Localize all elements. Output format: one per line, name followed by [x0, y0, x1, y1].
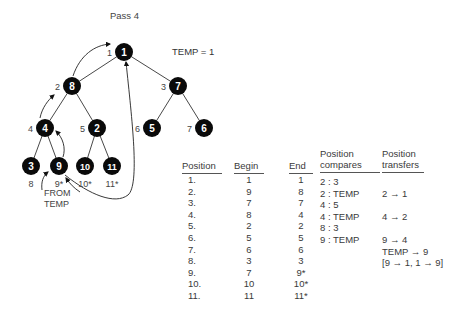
table-cell: 10.: [188, 278, 222, 290]
arrow-4-to-2: [40, 95, 54, 118]
compares-values: 2 : 32 : TEMP4 : 54 : TEMP8 : 39 : TEMP: [320, 176, 380, 246]
transfers-values: 2 → 1 4 → 2 9 → 4TEMP → 9[9 → 1, 1 → 9]: [382, 176, 466, 269]
table-cell: 8 : 3: [320, 222, 380, 234]
from-temp-label-2: TEMP: [44, 199, 69, 209]
position-values: 1.2.3.4.5.6.7.8.9.10.11.: [182, 174, 222, 302]
arrow-9-to-4: [56, 131, 64, 157]
table-cell: 3: [234, 255, 264, 267]
table-cell: 4: [289, 209, 313, 221]
node-value: 1: [121, 47, 127, 58]
table-cell: 4 : TEMP: [320, 211, 380, 223]
table-cell: 1.: [188, 174, 222, 186]
position-header: Position: [182, 160, 222, 174]
table-cell: 11.: [188, 290, 222, 302]
table-cell: 5: [234, 232, 264, 244]
tree-node-position-4: 44: [28, 119, 54, 137]
table-cell: 8.: [188, 255, 222, 267]
end-values: 187425639*10*11*: [289, 174, 313, 302]
compares-column: Position compares 2 : 32 : TEMP4 : 54 : …: [320, 148, 380, 246]
table-cell: [9 → 1, 1 → 9]: [382, 257, 466, 269]
tree-node-position-3: 73: [161, 77, 187, 95]
table-cell: 3.: [188, 197, 222, 209]
tree-node-position-9: 99*: [50, 157, 68, 189]
table-cell: 5: [289, 232, 313, 244]
node-position-label: 6: [135, 124, 140, 134]
table-cell: 8: [289, 186, 313, 198]
table-cell: 2: [289, 220, 313, 232]
table-cell: 9 : TEMP: [320, 234, 380, 246]
temp-value-label: TEMP = 1: [172, 46, 214, 57]
transfer-arrows: [40, 44, 134, 199]
node-value: 9: [56, 161, 62, 172]
node-value: 10: [80, 162, 90, 172]
table-cell: 4 → 2: [382, 211, 466, 223]
table-cell: 4 : 5: [320, 199, 380, 211]
table-cell: [382, 222, 466, 234]
table-cell: TEMP → 9: [382, 246, 466, 258]
node-value: 2: [94, 123, 100, 134]
node-position-label: 10*: [78, 179, 92, 189]
node-position-label: 2: [55, 82, 60, 92]
node-position-label: 5: [80, 124, 85, 134]
table-cell: 5.: [188, 220, 222, 232]
node-position-label: 11*: [106, 179, 119, 189]
begin-values: 1978256371011: [234, 174, 264, 302]
begin-column: Begin 1978256371011: [234, 160, 264, 302]
table-cell: 9*: [289, 267, 313, 279]
node-value: 7: [175, 81, 181, 92]
table-cell: 10*: [289, 278, 313, 290]
pass-title: Pass 4: [110, 10, 139, 21]
table-cell: 7: [234, 267, 264, 279]
table-cell: 11*: [289, 290, 313, 302]
table-cell: 6: [234, 244, 264, 256]
tree-node-position-11: 1111*: [103, 157, 121, 189]
from-temp-label-1: FROM: [44, 188, 71, 198]
table-cell: 8: [234, 209, 264, 221]
table-cell: 7: [289, 197, 313, 209]
table-cell: 6: [289, 244, 313, 256]
node-value: 4: [42, 123, 48, 134]
tree-node-position-7: 67: [187, 119, 213, 137]
end-header: End: [289, 160, 313, 174]
transfers-header: Position transfers: [382, 148, 424, 173]
transfers-column: Position transfers 2 → 1 4 → 2 9 → 4TEMP…: [382, 148, 466, 269]
table-cell: [382, 176, 466, 188]
table-cell: 2 : TEMP: [320, 188, 380, 200]
tree-node-position-2: 82: [55, 77, 81, 95]
tree-edges: [31, 52, 204, 166]
table-cell: 3: [289, 255, 313, 267]
table-cell: 6.: [188, 232, 222, 244]
table-cell: 7.: [188, 244, 222, 256]
table-cell: 1: [234, 174, 264, 186]
node-position-label: 3: [161, 82, 166, 92]
tree-node-position-1: 11: [107, 43, 133, 61]
node-position-label: 4: [28, 124, 33, 134]
end-column: End 187425639*10*11*: [289, 160, 313, 302]
table-cell: 9: [234, 186, 264, 198]
arrow-2-to-1: [73, 44, 110, 76]
tree-node-position-5: 25: [80, 119, 106, 137]
table-cell: 9.: [188, 267, 222, 279]
begin-header: Begin: [234, 160, 264, 174]
position-column: Position 1.2.3.4.5.6.7.8.9.10.11.: [182, 160, 222, 302]
table-cell: 7: [234, 197, 264, 209]
table-cell: 2: [234, 220, 264, 232]
tree-node-position-6: 56: [135, 119, 161, 137]
node-value: 5: [149, 123, 155, 134]
table-cell: 10: [234, 278, 264, 290]
table-cell: 11: [234, 290, 264, 302]
table-cell: 1: [289, 174, 313, 186]
node-position-label: 8: [28, 179, 33, 189]
table-cell: 4.: [188, 209, 222, 221]
tree-node-position-8: 38: [22, 157, 40, 189]
node-value: 6: [201, 123, 207, 134]
table-cell: 2.: [188, 186, 222, 198]
node-position-label: 7: [187, 124, 192, 134]
node-value: 11: [107, 162, 117, 172]
node-value: 3: [28, 161, 34, 172]
table-cell: [382, 199, 466, 211]
compares-header: Position compares: [320, 148, 380, 173]
node-position-label: 1: [107, 48, 112, 58]
table-cell: 2 → 1: [382, 188, 466, 200]
node-value: 8: [69, 81, 75, 92]
